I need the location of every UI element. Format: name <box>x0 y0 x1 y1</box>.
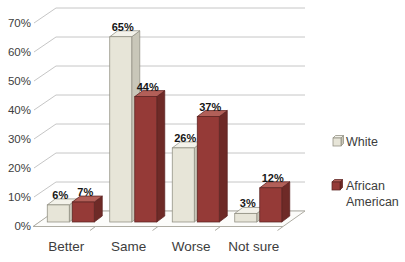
gridline-depth-tick <box>34 8 56 23</box>
bar-african-american-same-front-face <box>135 97 157 222</box>
bar-african-american-not-sure <box>260 182 290 222</box>
bar-chart: 0%10%20%30%40%50%60%70%6%7%Better65%44%S… <box>0 0 405 262</box>
y-tick-label: 30% <box>8 133 31 145</box>
data-label-african-american-worse: 37% <box>199 101 221 113</box>
bar-african-american-worse-side-face <box>219 111 227 222</box>
legend-item-african-american: AfricanAmerican <box>332 179 399 209</box>
y-tick-label: 60% <box>8 46 31 58</box>
data-label-african-american-not-sure: 12% <box>262 172 284 184</box>
legend-item-white: White <box>333 135 378 149</box>
legend-marker-white <box>333 138 341 146</box>
bar-white-better-front-face <box>47 205 69 222</box>
y-tick-label: 0% <box>14 220 31 232</box>
legend-label-white: White <box>346 135 378 149</box>
bar-african-american-not-sure-side-face <box>282 182 290 222</box>
category-label-worse: Worse <box>172 239 211 254</box>
gridline-depth-tick <box>34 95 56 110</box>
category-tick <box>153 227 159 231</box>
bar-african-american-better-front-face <box>72 202 94 222</box>
gridline-depth-tick <box>34 66 56 81</box>
y-tick-label: 10% <box>8 191 31 203</box>
legend-marker-african-american <box>332 182 340 190</box>
bar-african-american-same-side-face <box>157 91 165 222</box>
category-label-better: Better <box>48 239 85 254</box>
y-tick-label: 70% <box>8 17 31 29</box>
gridline-depth-tick <box>34 153 56 168</box>
bar-white-not-sure-front-face <box>235 213 257 222</box>
y-tick-label: 40% <box>8 104 31 116</box>
y-tick-label: 20% <box>8 162 31 174</box>
gridline-depth-tick <box>34 124 56 139</box>
data-label-african-american-better: 7% <box>77 186 93 198</box>
data-label-white-not-sure: 3% <box>240 197 256 209</box>
bar-african-american-same <box>135 91 165 222</box>
bar-white-worse-front-face <box>172 148 194 222</box>
category-label-same: Same <box>111 239 146 254</box>
gridline-depth-tick <box>34 37 56 52</box>
bar-african-american-not-sure-front-face <box>260 188 282 222</box>
data-label-white-worse: 26% <box>174 132 196 144</box>
category-tick <box>278 227 284 231</box>
bar-african-american-worse-front-face <box>197 117 219 222</box>
chart-canvas: 0%10%20%30%40%50%60%70%6%7%Better65%44%S… <box>0 0 405 262</box>
data-label-white-same: 65% <box>112 21 134 33</box>
bar-white-same-front-face <box>110 37 132 222</box>
y-tick-label: 50% <box>8 75 31 87</box>
data-label-white-better: 6% <box>52 189 68 201</box>
data-label-african-american-same: 44% <box>137 81 159 93</box>
category-label-not-sure: Not sure <box>228 239 279 254</box>
category-tick <box>90 227 96 231</box>
category-tick <box>215 227 221 231</box>
bar-african-american-better <box>72 196 102 222</box>
legend-label-african-american-line2: American <box>346 195 399 209</box>
legend-label-african-american-line1: African <box>346 179 385 193</box>
bar-african-american-worse <box>197 111 227 222</box>
